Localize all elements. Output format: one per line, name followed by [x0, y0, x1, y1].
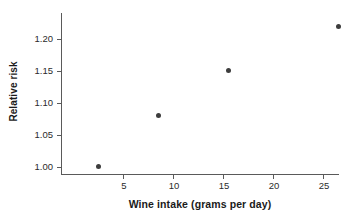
x-axis-title: Wine intake (grams per day): [61, 198, 339, 210]
x-tick: 15: [223, 174, 224, 179]
x-tick-label: 25: [319, 180, 330, 191]
x-tick-label: 5: [121, 180, 126, 191]
data-point: [96, 164, 101, 169]
y-tick: 1.20: [57, 39, 62, 40]
x-tick: 25: [323, 174, 324, 179]
x-tick: 5: [123, 174, 124, 179]
data-point: [156, 113, 161, 118]
y-tick: 1.05: [57, 135, 62, 136]
x-tick: 20: [273, 174, 274, 179]
x-tick-label: 20: [269, 180, 280, 191]
y-axis-title: Relative risk: [2, 0, 24, 182]
x-tick-label: 10: [169, 180, 180, 191]
y-tick-label: 1.10: [35, 97, 54, 108]
y-tick-label: 1.15: [35, 65, 54, 76]
y-tick-label: 1.20: [35, 33, 54, 44]
y-tick-label: 1.05: [35, 129, 54, 140]
y-tick: 1.10: [57, 103, 62, 104]
y-tick-label: 1.00: [35, 161, 54, 172]
y-tick: 1.15: [57, 71, 62, 72]
plot-area: 1.001.051.101.151.20 510152025: [61, 13, 339, 175]
data-point: [226, 68, 231, 73]
y-axis-title-text: Relative risk: [8, 61, 19, 121]
y-tick: 1.00: [57, 167, 62, 168]
data-point: [336, 24, 341, 29]
x-tick-label: 15: [219, 180, 230, 191]
x-tick: 10: [173, 174, 174, 179]
scatter-chart-figure: Relative risk 1.001.051.101.151.20 51015…: [0, 0, 350, 223]
